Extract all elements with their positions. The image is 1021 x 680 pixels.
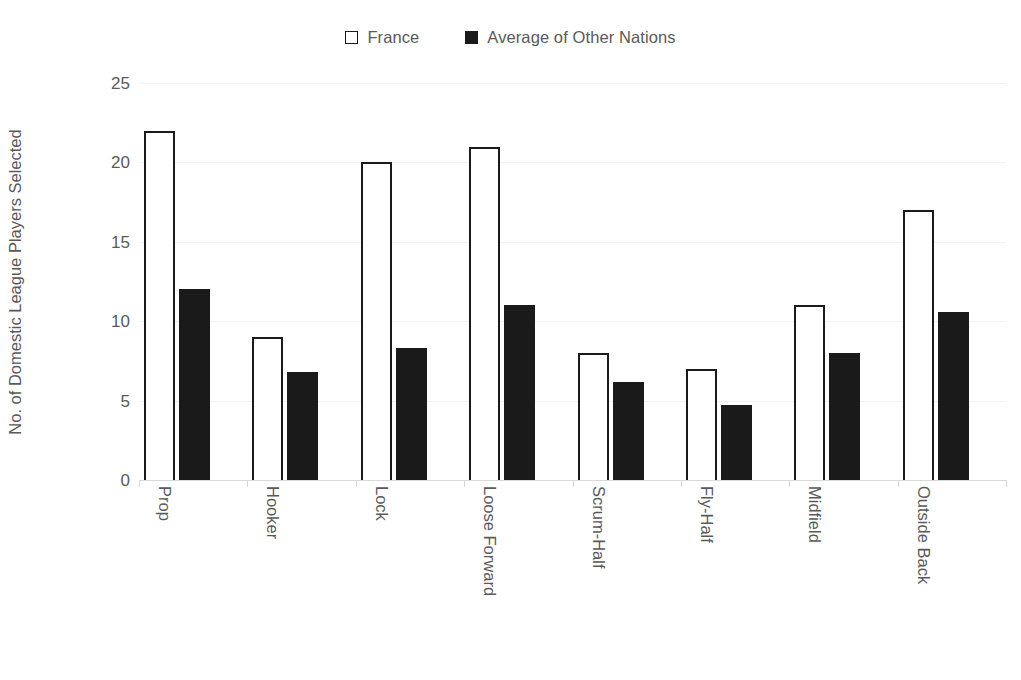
bar-group bbox=[573, 83, 681, 480]
bar-group bbox=[356, 83, 464, 480]
bar-france[interactable] bbox=[469, 147, 500, 480]
bar-other-nations[interactable] bbox=[287, 372, 318, 480]
x-axis-tick-mark bbox=[681, 480, 682, 487]
y-axis-title: No. of Domestic League Players Selected bbox=[0, 83, 30, 480]
x-axis-category-label: Fly-Half bbox=[697, 486, 717, 646]
bar-groups bbox=[139, 83, 1006, 480]
bar-group bbox=[681, 83, 789, 480]
bar-france[interactable] bbox=[903, 210, 934, 480]
x-axis-category-label: Hooker bbox=[263, 486, 283, 646]
x-axis-category-labels: PropHookerLockLoose ForwardScrum-HalfFly… bbox=[139, 486, 1006, 666]
y-axis-tick-label: 20 bbox=[90, 154, 130, 171]
x-axis-category-label: Prop bbox=[155, 486, 175, 646]
bar-other-nations[interactable] bbox=[396, 348, 427, 480]
y-axis-title-label: No. of Domestic League Players Selected bbox=[6, 129, 25, 434]
legend-label-average-of-other-nations: Average of Other Nations bbox=[487, 28, 675, 47]
y-axis-tick-labels: 0510152025 bbox=[86, 83, 130, 480]
bar-other-nations[interactable] bbox=[504, 305, 535, 480]
x-axis-tick-mark bbox=[139, 480, 140, 487]
x-axis-tick-mark bbox=[356, 480, 357, 487]
bar-france[interactable] bbox=[144, 131, 175, 480]
bar-group bbox=[789, 83, 897, 480]
bar-group bbox=[464, 83, 572, 480]
bar-france[interactable] bbox=[252, 337, 283, 480]
y-axis-tick-label: 10 bbox=[90, 313, 130, 330]
y-axis-tick-label: 15 bbox=[90, 233, 130, 250]
chart-container: France Average of Other Nations No. of D… bbox=[0, 0, 1021, 680]
x-axis-tick-mark bbox=[247, 480, 248, 487]
bar-france[interactable] bbox=[686, 369, 717, 480]
legend-label-france: France bbox=[367, 28, 419, 47]
bar-other-nations[interactable] bbox=[721, 405, 752, 480]
bar-group bbox=[139, 83, 247, 480]
bar-other-nations[interactable] bbox=[938, 312, 969, 480]
x-axis-category-label: Loose Forward bbox=[480, 486, 500, 646]
y-axis-tick-label: 5 bbox=[90, 392, 130, 409]
legend-item-average-of-other-nations[interactable]: Average of Other Nations bbox=[465, 28, 675, 47]
bar-other-nations[interactable] bbox=[829, 353, 860, 480]
x-axis-category-label: Midfield bbox=[805, 486, 825, 646]
legend-item-france[interactable]: France bbox=[345, 28, 419, 47]
bar-group bbox=[247, 83, 355, 480]
x-axis-category-label: Scrum-Half bbox=[589, 486, 609, 646]
x-axis-tick-mark bbox=[573, 480, 574, 487]
x-axis-tick-mark bbox=[1006, 480, 1007, 487]
bar-france[interactable] bbox=[578, 353, 609, 480]
x-axis-category-label: Outside Back bbox=[914, 486, 934, 646]
x-axis-tick-mark bbox=[898, 480, 899, 487]
x-axis-tick-mark bbox=[789, 480, 790, 487]
bar-other-nations[interactable] bbox=[613, 382, 644, 480]
y-axis-tick-label: 25 bbox=[90, 75, 130, 92]
legend-swatch-filled-icon bbox=[465, 31, 478, 44]
chart-legend: France Average of Other Nations bbox=[0, 28, 1021, 47]
bar-france[interactable] bbox=[794, 305, 825, 480]
y-axis-tick-label: 0 bbox=[90, 472, 130, 489]
bar-group bbox=[898, 83, 1006, 480]
x-axis-tick-mark bbox=[464, 480, 465, 487]
x-axis-category-label: Lock bbox=[372, 486, 392, 646]
bar-other-nations[interactable] bbox=[179, 289, 210, 480]
legend-swatch-outline-icon bbox=[345, 31, 358, 44]
bar-france[interactable] bbox=[361, 162, 392, 480]
